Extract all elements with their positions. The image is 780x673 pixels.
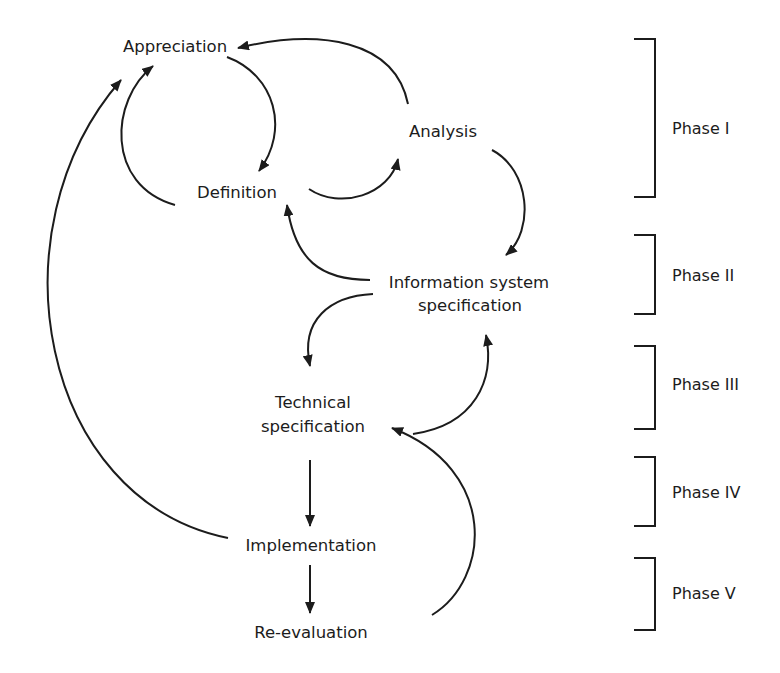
arrow-info-spec-to-technical-spec	[308, 294, 373, 366]
node-appreciation: Appreciation	[123, 37, 227, 56]
node-analysis: Analysis	[409, 122, 477, 141]
node-reevaluation: Re-evaluation	[254, 623, 368, 642]
phase-5-label: Phase V	[672, 584, 736, 603]
node-implementation: Implementation	[245, 536, 376, 555]
phase-4-bracket	[634, 457, 655, 526]
arrow-implementation-to-appreciation	[48, 80, 228, 538]
phase-2-bracket	[634, 235, 655, 314]
arrow-technical-spec-to-info-spec	[413, 335, 488, 434]
phase-3-label: Phase III	[672, 375, 739, 394]
arrow-info-spec-to-definition	[287, 205, 370, 280]
arrow-analysis-to-appreciation	[238, 39, 408, 104]
arrow-definition-to-appreciation	[121, 66, 175, 205]
node-info-system-spec-line1: Information system	[389, 273, 549, 292]
phase-4-label: Phase IV	[672, 483, 741, 502]
arrow-reevaluation-to-technical-spec	[392, 428, 475, 615]
arrow-appreciation-to-definition	[227, 57, 275, 171]
phase-3-bracket	[634, 346, 655, 429]
node-definition: Definition	[197, 183, 277, 202]
node-technical-spec-line1: Technical	[274, 393, 351, 412]
arrow-definition-to-analysis	[309, 159, 398, 199]
phase-2-label: Phase II	[672, 266, 734, 285]
phase-1-bracket	[634, 39, 655, 197]
process-diagram: Appreciation Analysis Definition Informa…	[0, 0, 780, 673]
phase-1-label: Phase I	[672, 119, 730, 138]
phase-5-bracket	[634, 558, 655, 630]
node-info-system-spec-line2: specification	[418, 296, 522, 315]
node-technical-spec-line2: specification	[261, 417, 365, 436]
arrow-analysis-to-info-spec	[492, 150, 525, 255]
